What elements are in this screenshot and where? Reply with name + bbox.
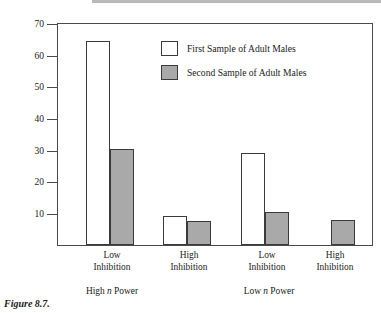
y-tick-label-70: 70 [35,18,45,30]
bar-group2-first [163,216,187,245]
x-group-label-high-n-power: High n Power [37,286,187,298]
x-category-label-3-line2: Inhibition [228,262,306,274]
legend-label-second-sample: Second Sample of Adult Males [187,67,306,79]
y-tick-60: 60 [47,56,58,57]
y-tick-label-30: 30 [35,145,45,157]
legend-item-first-sample: First Sample of Adult Males [161,41,306,56]
bar-group3-first [241,153,265,245]
y-tick-label-20: 20 [35,176,45,188]
x-group-label-1-suffix: Power [112,286,138,296]
legend-label-first-sample: First Sample of Adult Males [187,43,296,55]
y-tick-label-10: 10 [35,208,45,220]
x-category-label-1-line2: Inhibition [73,262,151,274]
y-tick-70: 70 [47,24,58,25]
bar-group2-second [187,221,211,245]
plot-area: 70 60 50 40 30 20 10 [57,23,373,246]
x-category-label-3: Low Inhibition [228,250,306,273]
x-category-label-3-line1: Low [258,250,275,260]
y-tick-label-50: 50 [35,81,45,93]
figure-8-7: Percentage of Heavy Drinkers (3 to 5 Dri… [0,0,381,313]
y-tick-label-60: 60 [35,50,45,62]
legend-swatch-second-sample [161,65,178,80]
x-category-label-1-line1: Low [103,250,120,260]
x-group-label-2-suffix: Power [268,286,294,296]
y-tick-20: 20 [47,182,58,183]
x-category-label-2-line2: Inhibition [150,262,228,274]
x-group-label-low-n-power: Low n Power [194,286,344,298]
y-tick-40: 40 [47,119,58,120]
x-category-label-1: Low Inhibition [73,250,151,273]
x-category-label-4-line1: High [326,250,345,260]
y-tick-30: 30 [47,151,58,152]
y-tick-label-40: 40 [35,113,45,125]
x-category-label-2-line1: High [180,250,199,260]
y-tick-50: 50 [47,87,58,88]
x-category-label-4-line2: Inhibition [296,262,374,274]
bar-group3-second [265,212,289,246]
legend-item-second-sample: Second Sample of Adult Males [161,65,306,80]
legend: First Sample of Adult Males Second Sampl… [161,41,306,80]
x-group-label-1-prefix: High [86,286,107,296]
legend-swatch-first-sample [161,41,178,56]
bar-group4-second [331,220,355,246]
x-group-label-2-prefix: Low [244,286,264,296]
bar-group1-first [86,41,110,245]
bar-group1-second [110,149,134,245]
y-tick-10: 10 [47,214,58,215]
figure-caption: Figure 8.7. [4,297,50,310]
x-category-label-4: High Inhibition [296,250,374,273]
x-category-label-2: High Inhibition [150,250,228,273]
